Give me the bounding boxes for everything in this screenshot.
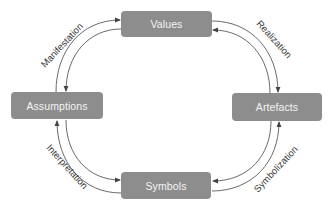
edge-label-symbolization: Symbolization	[251, 144, 299, 195]
node-label: Artefacts	[256, 101, 298, 113]
node-label: Values	[151, 18, 183, 30]
arrow-artefacts-to-values	[213, 30, 270, 93]
edge-realization: Realization	[212, 18, 294, 93]
node-label: Symbols	[146, 180, 187, 192]
arrow-artefacts-to-symbols	[213, 121, 271, 181]
edge-symbolization: Symbolization	[212, 121, 300, 194]
edge-label-realization: Realization	[255, 18, 295, 60]
edge-label-manifestation: Manifestation	[38, 21, 85, 70]
node-values: Values	[121, 11, 212, 37]
culture-cycle-diagram: Manifestation Realization Symbolization …	[0, 0, 335, 205]
edge-label-interpretation: Interpretation	[45, 142, 91, 191]
node-label: Assumptions	[26, 100, 87, 112]
node-assumptions: Assumptions	[11, 92, 103, 119]
edge-manifestation: Manifestation	[38, 20, 121, 92]
node-symbols: Symbols	[121, 172, 211, 199]
edge-interpretation: Interpretation	[45, 120, 121, 193]
arrow-assumptions-to-values	[56, 20, 120, 92]
node-artefacts: Artefacts	[232, 93, 322, 121]
